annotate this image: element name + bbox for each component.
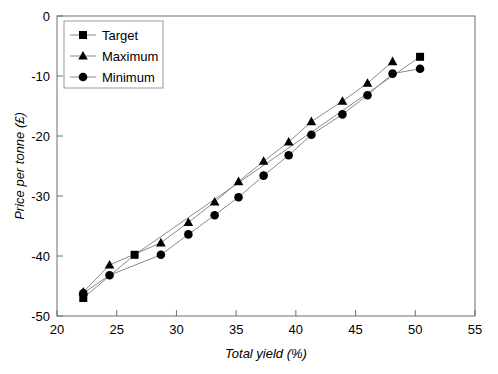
marker-minimum bbox=[416, 65, 425, 74]
marker-minimum bbox=[105, 271, 114, 280]
marker-minimum bbox=[338, 110, 347, 119]
x-tick-label: 20 bbox=[50, 322, 64, 337]
x-axis-ticks bbox=[57, 310, 475, 316]
marker-maximum bbox=[105, 260, 115, 269]
marker-maximum bbox=[388, 57, 398, 66]
marker-maximum bbox=[184, 217, 194, 226]
x-tick-label: 30 bbox=[169, 322, 183, 337]
y-tick-label: 0 bbox=[43, 9, 50, 24]
marker-maximum bbox=[307, 117, 317, 126]
y-tick-label: -20 bbox=[31, 129, 50, 144]
marker-minimum bbox=[388, 69, 397, 78]
marker-minimum bbox=[157, 251, 166, 260]
marker-minimum bbox=[234, 193, 243, 202]
x-tick-label: 45 bbox=[348, 322, 362, 337]
chart-figure: 2025303540455055 0-10-20-30-40-50 Total … bbox=[0, 0, 498, 374]
x-axis-title: Total yield (%) bbox=[225, 346, 307, 361]
marker-target bbox=[416, 53, 424, 61]
marker-minimum bbox=[284, 151, 293, 160]
x-tick-label: 50 bbox=[408, 322, 422, 337]
x-axis-tick-labels: 2025303540455055 bbox=[50, 322, 482, 337]
chart-legend: TargetMaximumMinimum bbox=[64, 21, 163, 88]
marker-maximum bbox=[338, 96, 348, 105]
marker-minimum bbox=[184, 230, 193, 239]
y-tick-label: -30 bbox=[31, 189, 50, 204]
marker-maximum bbox=[259, 156, 269, 165]
legend-marker-minimum bbox=[79, 73, 88, 82]
y-tick-label: -50 bbox=[31, 309, 50, 324]
legend-label-maximum: Maximum bbox=[102, 49, 158, 64]
x-tick-label: 55 bbox=[468, 322, 482, 337]
marker-maximum bbox=[363, 78, 373, 87]
y-axis-tick-labels: 0-10-20-30-40-50 bbox=[31, 9, 50, 324]
y-axis-title-text: Price per tonne (£) bbox=[12, 112, 27, 220]
legend-label-target: Target bbox=[102, 28, 139, 43]
y-axis-ticks bbox=[57, 16, 63, 316]
y-tick-label: -10 bbox=[31, 69, 50, 84]
legend-marker-target bbox=[79, 31, 87, 39]
legend-label-minimum: Minimum bbox=[102, 70, 155, 85]
marker-maximum bbox=[284, 137, 294, 146]
marker-minimum bbox=[307, 131, 316, 140]
series-line-minimum bbox=[83, 69, 420, 293]
x-tick-label: 40 bbox=[289, 322, 303, 337]
x-tick-label: 25 bbox=[109, 322, 123, 337]
marker-minimum bbox=[259, 171, 268, 180]
marker-minimum bbox=[79, 289, 88, 298]
marker-target bbox=[131, 251, 139, 259]
y-tick-label: -40 bbox=[31, 249, 50, 264]
y-axis-title: Price per tonne (£) bbox=[12, 112, 27, 220]
marker-minimum bbox=[363, 91, 372, 100]
series-line-maximum bbox=[83, 62, 392, 292]
marker-minimum bbox=[210, 211, 219, 220]
x-tick-label: 35 bbox=[229, 322, 243, 337]
chart-canvas: 2025303540455055 0-10-20-30-40-50 Total … bbox=[0, 0, 498, 374]
